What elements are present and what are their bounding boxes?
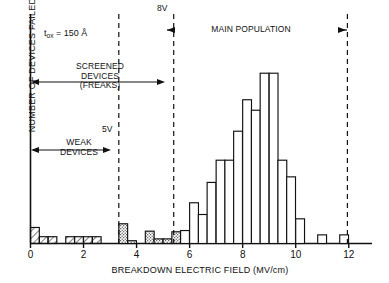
histogram-bar [163,239,172,244]
histogram-bar [287,177,296,244]
main-population-text: MAIN POPULATION [187,25,315,35]
x-tick-10: 10 [286,249,306,260]
histogram-bar [75,237,84,244]
histogram-bar [269,73,278,243]
histogram-bar [181,231,190,244]
histogram-bar [296,219,305,244]
histogram-bar [119,224,128,244]
x-tick-6: 6 [180,249,200,260]
weak-devices-line2: DEVICES [48,148,110,158]
histogram-bar [260,73,269,243]
histogram-bar [92,237,101,244]
main-population-label: MAIN POPULATION [187,25,315,35]
histogram-bar [39,237,48,244]
x-tick-4: 4 [127,249,147,260]
histogram-bar [128,241,137,244]
histogram-bar [278,160,287,243]
histogram-bar [225,160,234,243]
tox-value: = 150 Å [53,28,87,38]
histogram-bar [234,131,243,243]
marker-8v-label: 8V [157,3,167,13]
tox-annotation: tox = 150 Å [44,28,87,39]
x-tick-12: 12 [339,249,359,260]
histogram-bar [207,182,216,243]
axes [31,14,373,248]
histogram-figure: NUMBER OF DEVICES FAILED BREAKDOWN ELECT… [0,0,389,283]
screened-devices-line3: (FREAKS) [55,81,145,91]
histogram-bar [190,203,199,244]
screened-devices-label: SCREENED DEVICES (FREAKS) [55,62,145,91]
x-tick-0: 0 [21,249,41,260]
histogram-bar [198,215,207,244]
histogram-bar [31,227,40,243]
x-tick-8: 8 [233,249,253,260]
x-axis-label: BREAKDOWN ELECTRIC FIELD (MV/cm) [30,265,370,275]
histogram-bars [31,73,349,243]
histogram-bar [145,231,154,243]
weak-devices-label: WEAK DEVICES [48,138,110,157]
marker-5v-label: 5V [102,124,112,134]
histogram-bar [66,237,75,244]
histogram-bar [48,237,57,244]
histogram-bar [243,100,252,244]
x-tick-2: 2 [74,249,94,260]
histogram-bar [318,235,327,244]
histogram-bar [154,239,163,244]
histogram-bar [84,237,93,244]
histogram-bar [216,160,225,243]
histogram-bar [251,110,260,243]
y-axis-label: NUMBER OF DEVICES FAILED [27,0,37,155]
